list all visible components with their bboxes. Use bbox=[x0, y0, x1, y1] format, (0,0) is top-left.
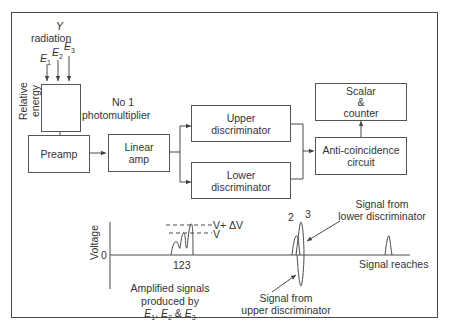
upper-signal-note: Signal from upper discriminator bbox=[236, 292, 336, 316]
lower-signal-note: Signal from lower discriminator bbox=[332, 198, 432, 222]
amplified-caption: Amplified signals produced by E1, E2 & E… bbox=[120, 282, 220, 325]
pm-label: photomultiplier bbox=[82, 109, 150, 121]
preamp-block: Preamp bbox=[28, 135, 90, 173]
amplified-pulses bbox=[171, 224, 193, 255]
zero-label: 0 bbox=[101, 249, 107, 261]
scalar-counter-block: Scalar&counter bbox=[315, 83, 407, 121]
diagram-canvas: Y radiation E1 E2 E3 Relative energy No … bbox=[0, 0, 449, 333]
pm-number-label: No 1 bbox=[96, 96, 150, 108]
lower-discriminator-block: Lowerdiscriminator bbox=[191, 162, 291, 199]
gamma-symbol: Y bbox=[56, 20, 63, 32]
e3-label: E3 bbox=[64, 40, 75, 57]
anti-coincidence-block: Anti-coincidencecircuit bbox=[315, 137, 407, 175]
linear-amp-block: Linearamp bbox=[108, 134, 170, 172]
e2-label: E2 bbox=[52, 46, 63, 63]
relative-label: Relative bbox=[17, 82, 29, 120]
photomultiplier-crystal bbox=[41, 84, 81, 132]
peak-2-label: 2 bbox=[288, 211, 294, 223]
peaks-123-label: 123 bbox=[173, 259, 191, 271]
voltage-axis-label: Voltage bbox=[88, 225, 100, 260]
energy-label: energy bbox=[29, 85, 41, 117]
e1-label: E1 bbox=[40, 52, 51, 69]
reaches-pulse bbox=[385, 236, 392, 255]
upper-discriminator-block: Upperdiscriminator bbox=[191, 105, 291, 142]
v-label: V bbox=[213, 228, 220, 240]
signal-reaches-note: Signal reaches bbox=[359, 258, 428, 270]
peak-3-label: 3 bbox=[305, 208, 311, 220]
